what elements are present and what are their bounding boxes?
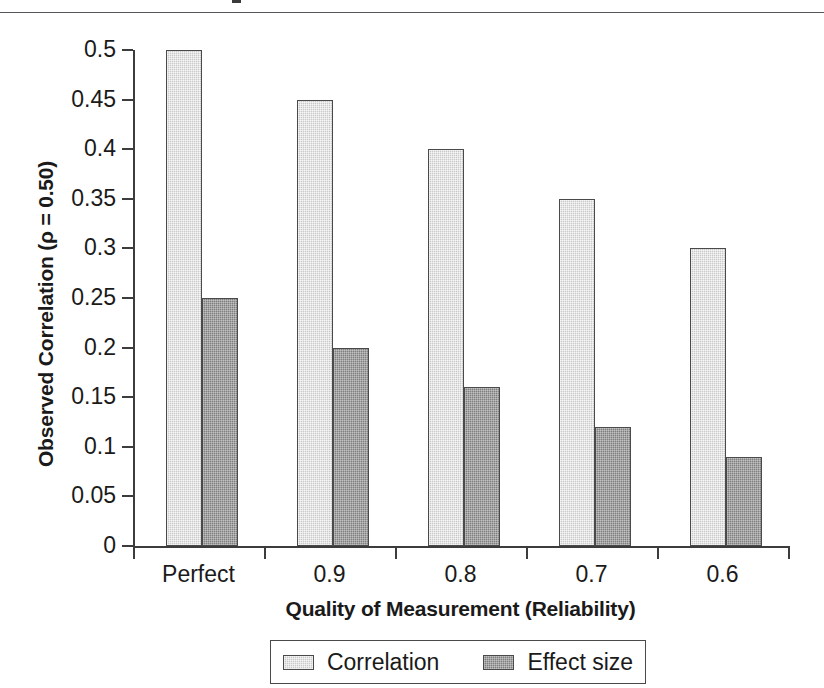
x-axis-tick xyxy=(395,546,397,559)
y-axis-tick xyxy=(122,198,133,200)
x-axis-line xyxy=(133,546,788,548)
y-axis-tick-label: 0.15 xyxy=(0,385,116,408)
legend-label: Correlation xyxy=(327,651,440,674)
plot-area xyxy=(133,50,788,546)
chart-legend: CorrelationEffect size xyxy=(270,640,646,684)
x-axis-tick-label: Perfect xyxy=(133,563,264,586)
y-axis-tick xyxy=(122,49,133,51)
bar-correlation-0.8 xyxy=(428,149,464,546)
y-axis-tick xyxy=(122,297,133,299)
y-axis-tick xyxy=(122,99,133,101)
y-axis-tick xyxy=(122,545,133,547)
x-axis-tick xyxy=(657,546,659,559)
bar-correlation-perfect xyxy=(166,50,202,546)
y-axis-tick-label: 0.4 xyxy=(0,137,116,160)
x-axis-tick-label: 0.8 xyxy=(395,563,526,586)
y-axis-tick-label: 0.3 xyxy=(0,236,116,259)
x-axis-tick xyxy=(264,546,266,559)
legend-entry-correlation[interactable]: Correlation xyxy=(283,651,440,674)
bar-correlation-0.7 xyxy=(559,199,595,546)
x-axis-tick-label: 0.6 xyxy=(657,563,788,586)
y-axis-tick xyxy=(122,247,133,249)
bar-effect-size-0.9 xyxy=(333,348,369,546)
x-axis-title: Quality of Measurement (Reliability) xyxy=(133,597,788,621)
y-axis-tick xyxy=(122,347,133,349)
y-axis-tick-label: 0.1 xyxy=(0,435,116,458)
x-axis-tick xyxy=(133,546,135,559)
bar-effect-size-0.8 xyxy=(464,387,500,546)
x-axis-tick xyxy=(526,546,528,559)
legend-entry-effect-size[interactable]: Effect size xyxy=(483,651,633,674)
y-axis-tick-label: 0.05 xyxy=(0,484,116,507)
legend-swatch-icon xyxy=(283,655,314,670)
page-divider-rule xyxy=(0,12,824,13)
x-axis-tick-label: 0.9 xyxy=(264,563,395,586)
cropped-caption-fragment xyxy=(232,0,241,3)
y-axis-tick-label: 0 xyxy=(0,534,116,557)
y-axis-tick-label: 0.2 xyxy=(0,336,116,359)
bar-effect-size-perfect xyxy=(202,298,238,546)
legend-swatch-icon xyxy=(483,655,514,670)
bar-effect-size-0.7 xyxy=(595,427,631,546)
y-axis-tick xyxy=(122,495,133,497)
y-axis-tick xyxy=(122,446,133,448)
y-axis-tick-label: 0.5 xyxy=(0,38,116,61)
bar-chart-figure: Observed Correlation (ρ = 0.50) Quality … xyxy=(0,14,824,688)
bar-correlation-0.6 xyxy=(690,248,726,546)
bar-correlation-0.9 xyxy=(297,100,333,546)
x-axis-tick xyxy=(788,546,790,559)
legend-label: Effect size xyxy=(527,651,633,674)
y-axis-tick xyxy=(122,148,133,150)
y-axis-tick-label: 0.45 xyxy=(0,88,116,111)
bar-effect-size-0.6 xyxy=(726,457,762,546)
y-axis-tick xyxy=(122,396,133,398)
x-axis-tick-label: 0.7 xyxy=(526,563,657,586)
y-axis-tick-label: 0.25 xyxy=(0,286,116,309)
y-axis-tick-label: 0.35 xyxy=(0,187,116,210)
